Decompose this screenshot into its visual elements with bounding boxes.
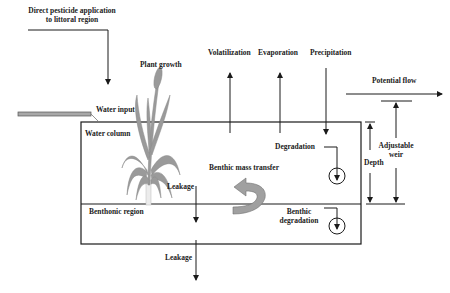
label-adjustable-weir-line1: Adjustable xyxy=(375,141,417,150)
label-water-column: Water column xyxy=(85,129,130,138)
label-benthonic-region: Benthonic region xyxy=(89,207,144,216)
water-body-box xyxy=(81,122,361,244)
label-benthic-degradation-line2: degradation xyxy=(276,216,322,225)
label-volatilization: Volatilization xyxy=(208,48,251,57)
degradation-symbol xyxy=(324,147,345,184)
label-potential-flow: Potential flow xyxy=(372,76,416,85)
label-benthic-mass-transfer: Benthic mass transfer xyxy=(209,163,279,172)
label-precipitation: Precipitation xyxy=(310,48,352,57)
label-benthic-degradation: Benthic degradation xyxy=(276,207,322,225)
benthic-mass-transfer-arrow xyxy=(233,178,265,214)
label-evaporation: Evaporation xyxy=(258,48,298,57)
outer-box xyxy=(81,122,361,244)
direct-application-arrow xyxy=(28,30,108,84)
water-input-pipe xyxy=(18,112,99,122)
label-direct-application-line2: to littoral region xyxy=(22,15,122,24)
label-direct-application: Direct pesticide application to littoral… xyxy=(22,6,122,24)
label-depth: Depth xyxy=(364,158,384,167)
label-leakage-upper: Leakage xyxy=(167,182,194,191)
label-benthic-degradation-line1: Benthic xyxy=(276,207,322,216)
label-degradation: Degradation xyxy=(275,142,315,151)
label-adjustable-weir: Adjustable weir xyxy=(375,141,417,159)
label-leakage-lower: Leakage xyxy=(165,253,192,262)
label-water-input: Water input xyxy=(96,105,135,114)
benthic-degradation-symbol xyxy=(324,208,345,234)
label-plant-growth: Plant growth xyxy=(140,60,182,69)
label-direct-application-line1: Direct pesticide application xyxy=(22,6,122,15)
